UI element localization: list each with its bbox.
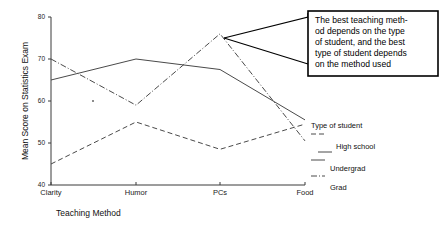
y-tick-label-70: 70 (38, 55, 46, 62)
y-tick-label-80: 80 (38, 13, 46, 20)
x-cat-label-clarity: Clarity (40, 188, 62, 197)
callout-leader-top (224, 13, 308, 38)
legend-label-grad: Grad (330, 183, 347, 192)
series-line-high-school (51, 59, 305, 120)
annotation-line-1: The best teaching meth- (315, 15, 408, 25)
annotation-line-3: of student, and the best (315, 37, 405, 47)
callout-leader-bottom (224, 38, 308, 64)
legend-title: Type of student (311, 121, 363, 130)
y-tick-label-40: 40 (38, 181, 46, 188)
annotation-line-2: od depends on the type (315, 26, 405, 36)
y-tick-label-60: 60 (38, 97, 46, 104)
chart-canvas: 40 50 60 70 80 Clarity Humor PCs Food Me… (0, 0, 444, 231)
x-axis-title: Teaching Method (56, 208, 121, 218)
series-line-undergrad (51, 122, 305, 164)
x-cat-label-humor: Humor (125, 188, 148, 197)
y-tick-label-50: 50 (38, 139, 46, 146)
legend-label-undergrad: Undergrad (330, 164, 365, 173)
series-line-grad (51, 34, 305, 141)
line-chart: 40 50 60 70 80 Clarity Humor PCs Food Me… (0, 0, 444, 231)
annotation-line-5: on the method used (315, 59, 391, 69)
x-cat-label-pcs: PCs (213, 188, 227, 197)
annotation-line-4: type of student depends (315, 48, 407, 58)
legend-label-high-school: High school (336, 142, 376, 151)
scan-speck (92, 100, 94, 102)
x-cat-label-food: Food (296, 188, 313, 197)
y-axis-title: Mean Score on Statistics Exam (20, 42, 30, 160)
